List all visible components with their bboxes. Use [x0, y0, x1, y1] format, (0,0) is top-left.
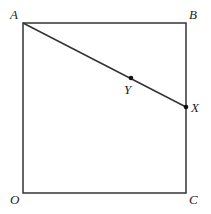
label-O: O [10, 192, 20, 207]
point-Y [129, 76, 134, 81]
label-B: B [189, 7, 197, 22]
label-A: A [9, 7, 18, 22]
point-X [184, 105, 189, 110]
segment-AX [23, 23, 186, 107]
label-Y: Y [124, 82, 133, 97]
label-X: X [190, 100, 200, 115]
geometry-diagram: A B C O Y X [0, 0, 211, 214]
square-OABC [23, 23, 186, 193]
label-C: C [189, 192, 198, 207]
